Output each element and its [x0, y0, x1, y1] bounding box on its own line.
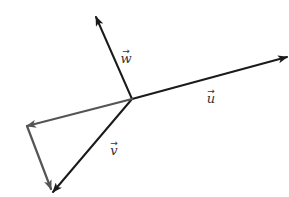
vector-helper-2-arrow	[27, 126, 51, 189]
vector-w-label: w	[120, 51, 131, 66]
vector-diagram: →u→w→v	[0, 0, 289, 197]
vector-v-label: v	[110, 143, 118, 158]
vector-v-arrow	[53, 99, 132, 192]
vector-helper-1-arrow	[27, 99, 132, 126]
vector-u-label: u	[207, 91, 215, 106]
